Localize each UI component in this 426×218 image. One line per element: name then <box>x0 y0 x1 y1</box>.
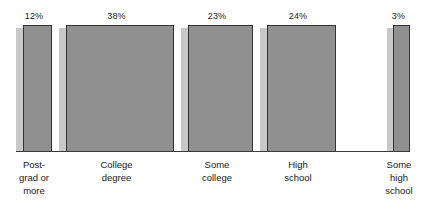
bar-side-shadow <box>260 28 267 152</box>
category-label-line: grad or <box>16 171 52 184</box>
bar-chart: 12% 38% 23% 24% 3% <box>0 0 426 218</box>
category-label-postgrad: Post- grad or more <box>16 158 52 197</box>
category-label-line: more <box>16 184 52 197</box>
category-label-college-degree: College degree <box>59 158 174 184</box>
bar-value-label: 23% <box>181 11 253 21</box>
category-label-line: Some <box>375 158 423 171</box>
bar-side-shadow <box>59 28 66 152</box>
bar-side-shadow <box>181 28 188 152</box>
category-label-line: High <box>260 158 336 171</box>
bar-group[interactable]: 23% <box>181 25 253 152</box>
bar-body[interactable] <box>267 25 336 152</box>
bar-group[interactable]: 38% <box>59 25 174 152</box>
category-label-line: degree <box>59 171 174 184</box>
category-label-line: Post- <box>16 158 52 171</box>
bar-value-label: 12% <box>16 11 52 21</box>
bar-side-shadow <box>16 28 23 152</box>
bar-group[interactable]: 3% <box>387 25 410 152</box>
bar-value-label: 24% <box>260 11 336 21</box>
category-label-line: College <box>59 158 174 171</box>
category-label-line: school <box>375 184 423 197</box>
bar-body[interactable] <box>393 25 410 152</box>
category-label-line: high <box>375 171 423 184</box>
bar-group[interactable]: 12% <box>16 25 52 152</box>
bar-body[interactable] <box>66 25 174 152</box>
plot-area: 12% 38% 23% 24% 3% <box>0 0 426 152</box>
category-label-line: school <box>260 171 336 184</box>
bar-value-label: 38% <box>59 11 174 21</box>
category-label-high-school: High school <box>260 158 336 184</box>
bar-body[interactable] <box>23 25 52 152</box>
x-axis-baseline <box>16 151 410 152</box>
bar-body[interactable] <box>188 25 253 152</box>
category-labels: Post- grad or more College degree Some c… <box>0 158 426 218</box>
bar-value-label: 3% <box>387 11 410 21</box>
category-label-some-high-school: Some high school <box>375 158 423 197</box>
category-label-some-college: Some college <box>181 158 253 184</box>
category-label-line: college <box>181 171 253 184</box>
bar-group[interactable]: 24% <box>260 25 336 152</box>
category-label-line: Some <box>181 158 253 171</box>
